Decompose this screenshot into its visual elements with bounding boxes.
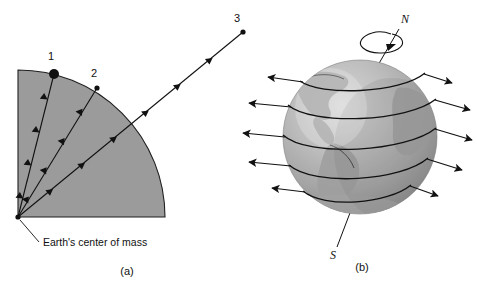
panel-b: N S (b) [243, 12, 472, 273]
point-marker-2 [94, 85, 99, 90]
figure-root: 1 2 3 Earth's center of mass (a) [0, 0, 477, 292]
center-of-mass-label: Earth's center of mass [43, 236, 147, 248]
caption-panel-b: (b) [355, 261, 368, 273]
caption-panel-a: (a) [120, 265, 133, 277]
point-label-2: 2 [91, 67, 97, 79]
velocity-arrow-right-4 [427, 159, 462, 170]
earth-quarter-wedge [18, 70, 165, 217]
velocity-arrow-left-4 [249, 162, 291, 166]
center-of-mass-leader [20, 220, 39, 242]
velocity-arrow-left-2 [249, 103, 291, 107]
scientific-figure: 1 2 3 Earth's center of mass (a) [0, 0, 477, 292]
velocity-arrow-left-3 [243, 133, 285, 137]
velocity-arrow-right-1 [424, 74, 452, 83]
velocity-arrow-left-1 [268, 77, 303, 82]
velocity-arrow-right-2 [435, 100, 470, 110]
velocity-arrow-left-5 [272, 188, 305, 192]
north-pole-label: N [400, 12, 410, 26]
panel-a: 1 2 3 Earth's center of mass (a) [15, 12, 245, 277]
point-label-1: 1 [48, 50, 54, 62]
point-label-3: 3 [234, 12, 240, 24]
point-marker-3 [240, 29, 245, 34]
velocity-arrow-right-3 [435, 129, 472, 140]
globe-highlight [295, 68, 367, 148]
point-marker-1 [49, 69, 59, 79]
center-of-mass-dot [15, 214, 20, 219]
rotation-direction-arrow [360, 32, 402, 53]
south-pole-label: S [330, 248, 336, 262]
